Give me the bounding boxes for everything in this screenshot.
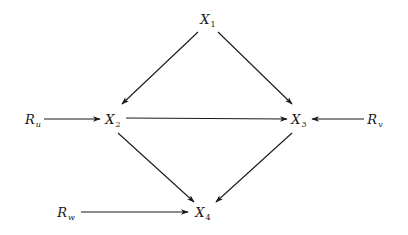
node-x2-sub: 2: [116, 120, 121, 129]
diagram-canvas: [0, 0, 408, 235]
node-x4: X4: [195, 205, 210, 222]
edge-x3-x4: [216, 133, 292, 202]
node-x4-sub: 4: [206, 213, 211, 222]
node-x1-sub: 1: [211, 20, 216, 29]
node-x1: X1: [200, 12, 215, 29]
node-x3-base: X: [291, 112, 300, 127]
node-x3: X3: [291, 112, 306, 129]
node-x3-sub: 3: [302, 120, 307, 129]
node-rw: Rw: [57, 205, 75, 222]
node-ru-base: R: [25, 112, 35, 127]
node-x2: X2: [105, 112, 120, 129]
edge-x1-x2: [122, 32, 198, 104]
node-x1-base: X: [200, 12, 209, 27]
node-ru-sub: u: [36, 120, 41, 129]
node-rv-base: R: [367, 112, 377, 127]
node-rw-sub: w: [68, 213, 75, 222]
edge-x2-x4: [118, 133, 194, 202]
node-x2-base: X: [105, 112, 114, 127]
edge-x1-x3: [218, 32, 292, 104]
node-rw-base: R: [57, 205, 67, 220]
node-rv-sub: v: [378, 120, 383, 129]
node-ru: Ru: [25, 112, 41, 129]
node-rv: Rv: [367, 112, 382, 129]
edge-x2-x3: [126, 118, 287, 119]
node-x4-base: X: [195, 205, 204, 220]
